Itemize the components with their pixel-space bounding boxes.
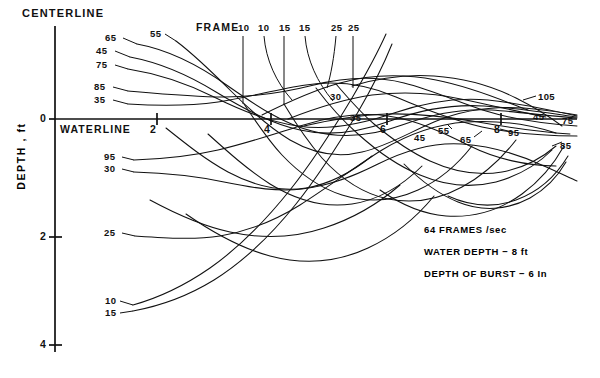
frame-leader-25a: [327, 36, 336, 88]
curve-10: [133, 34, 386, 305]
leader-95: [122, 157, 134, 160]
leader-85: [113, 87, 128, 91]
leader-10-bottom: [120, 301, 133, 305]
leader-35: [113, 100, 128, 104]
curve-105: [262, 76, 528, 115]
figure-canvas: CENTERLINE DEPTH , ft FRAME 10 10 15 15 …: [0, 0, 600, 378]
curve-85-right: [404, 162, 566, 208]
leader-25: [122, 233, 135, 236]
leader-55: [165, 34, 176, 41]
wave-profile-plot: [0, 0, 600, 378]
leader-65: [123, 38, 137, 44]
leader-30: [122, 169, 134, 172]
leader-75: [115, 65, 128, 69]
leader-15-bottom: [120, 311, 133, 313]
leader-85-right: [552, 142, 562, 146]
leader-105: [523, 96, 536, 100]
leader-65-right: [474, 131, 482, 137]
curve-far-right-rise: [448, 156, 568, 205]
leader-45: [115, 51, 130, 57]
curve-low-sweep-2: [186, 196, 434, 261]
